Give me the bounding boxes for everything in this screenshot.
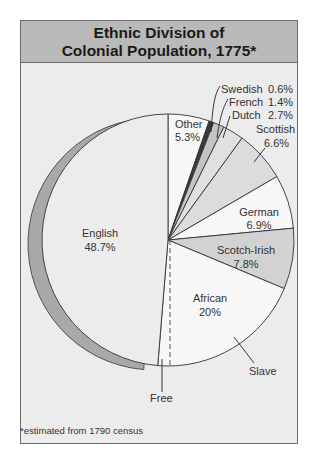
pie-chart: Other 5.3% Swedish 0.6% French 1.4% Dutc… [0,0,314,465]
label-scottish-pct: 6.6% [264,137,289,149]
label-english-pct: 48.7% [84,241,115,253]
label-german: German [239,206,279,218]
label-dutch: Dutch [232,109,261,121]
pie-slices [28,114,294,370]
label-other: Other [175,118,203,130]
label-french: French [229,96,263,108]
label-african: African [193,292,227,304]
label-free: Free [150,392,173,404]
label-scottish: Scottish [256,123,295,135]
label-swedish-pct: 0.6% [268,83,293,95]
label-slave: Slave [249,365,277,377]
label-french-pct: 1.4% [268,96,293,108]
label-african-pct: 20% [199,306,221,318]
footnote: *estimated from 1790 census [20,425,143,436]
label-german-pct: 6.9% [246,219,271,231]
label-english: English [82,227,118,239]
label-dutch-pct: 2.7% [268,109,293,121]
label-other-pct: 5.3% [175,131,200,143]
label-swedish: Swedish [221,83,263,95]
label-scotch-irish-pct: 7.8% [233,258,258,270]
label-scotch-irish: Scotch-Irish [217,244,275,256]
